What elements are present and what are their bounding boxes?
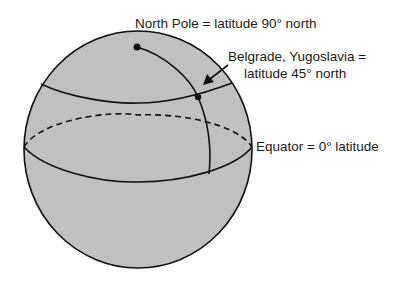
belgrade-label-line1: Belgrade, Yugoslavia = [228,49,366,64]
latitude-sphere-diagram: North Pole = latitude 90° north Belgrade… [0,0,393,283]
belgrade-label-line2: latitude 45° north [244,66,346,81]
globe-sphere [24,31,252,268]
belgrade-marker [195,94,201,100]
north-pole-label: North Pole = latitude 90° north [135,16,316,31]
north-pole-marker [134,44,141,51]
equator-label: Equator = 0° latitude [256,139,379,154]
